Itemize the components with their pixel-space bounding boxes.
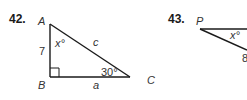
vertex-a-label: A: [38, 15, 45, 27]
side-hypotenuse-label: c: [93, 36, 99, 48]
vertex-c-label: C: [147, 74, 155, 86]
problem-number-43: 43.: [168, 12, 185, 26]
side-bc-label: a: [93, 79, 99, 91]
vertex-b-label: B: [38, 79, 45, 91]
problem-number-42: 42.: [9, 12, 26, 26]
triangle-abc: [50, 24, 130, 77]
angle-p-label: x°: [230, 29, 240, 41]
vertex-p-label: P: [196, 15, 203, 27]
angle-c-label: 30°: [101, 66, 118, 78]
side-partial-length: 8: [242, 52, 247, 64]
angle-a-label: x°: [55, 37, 65, 49]
side-ab-length: 7: [39, 45, 45, 57]
